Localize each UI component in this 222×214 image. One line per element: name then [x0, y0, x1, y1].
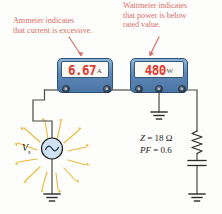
ammeter-terminal-left: [62, 85, 70, 93]
ammeter-annotation: Ammeter indicates that current is excess…: [13, 16, 92, 35]
ammeter-display: 6.67 A: [61, 61, 109, 78]
load-impedance-value: = 18 Ω: [147, 133, 172, 143]
wattmeter-annotation-line-2: that power is below: [123, 11, 187, 21]
ammeter: 6.67 A: [57, 58, 113, 93]
wattmeter-reading: 480: [145, 61, 166, 78]
load-pf-symbol: PF: [140, 145, 151, 155]
ammeter-reading: 6.67: [68, 61, 96, 78]
capacitor-symbol: [188, 161, 206, 166]
source-label: Vs: [22, 142, 31, 155]
resistor-symbol: [192, 131, 202, 154]
wattmeter-unit: W: [167, 67, 174, 75]
annotation-arrows: [69, 37, 159, 57]
ammeter-annotation-line-2: that current is excessive.: [13, 26, 92, 36]
load-pf-value: = 0.6: [153, 145, 172, 155]
figure-canvas: Ammeter indicates that current is excess…: [0, 0, 222, 214]
ground-symbol-source: [44, 194, 60, 201]
wattmeter-annotation-line-3: rated value.: [123, 20, 187, 30]
arrow-to-wattmeter: [149, 37, 159, 57]
ground-symbol-load: [189, 194, 205, 201]
ammeter-unit: A: [97, 67, 102, 75]
wattmeter-annotation-line-1: Wattmeter indicates: [123, 1, 187, 11]
ammeter-terminal-right: [103, 85, 111, 93]
load-impedance-label: Z = 18 Ω: [140, 133, 173, 143]
wattmeter-annotation: Wattmeter indicates that power is below …: [123, 1, 187, 30]
wattmeter-terminal-middle: [155, 85, 163, 93]
load-impedance-symbol: Z: [140, 133, 145, 143]
ground-symbol-wattmeter: [151, 112, 167, 119]
wattmeter-terminal-right: [178, 85, 186, 93]
wattmeter: 480 W: [130, 58, 188, 93]
source-label-subscript: s: [28, 148, 31, 155]
wattmeter-terminal-left: [135, 85, 143, 93]
ammeter-annotation-line-1: Ammeter indicates: [13, 16, 92, 26]
wattmeter-display: 480 W: [134, 61, 184, 78]
ac-source-symbol: [42, 138, 63, 159]
arrow-to-ammeter: [69, 37, 83, 57]
load-pf-label: PF = 0.6: [140, 145, 172, 155]
